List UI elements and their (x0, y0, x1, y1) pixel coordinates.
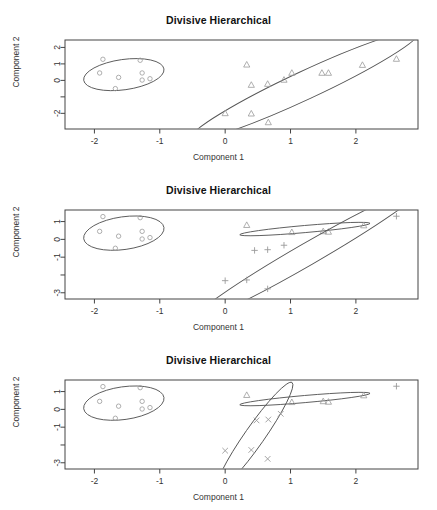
data-point-circle (140, 229, 144, 233)
cluster-ellipse (185, 178, 428, 331)
data-point-triangle (265, 81, 271, 87)
x-tick-label: -2 (91, 476, 99, 486)
y-tick-label: 1 (52, 389, 62, 394)
data-point-circle (116, 75, 120, 79)
data-point-circle (116, 404, 120, 408)
plot-frame (65, 210, 418, 299)
data-point-triangle (248, 82, 254, 88)
y-tick-label: 0 (52, 407, 62, 412)
data-point-circle (97, 399, 101, 403)
x-tick-label: -1 (156, 136, 164, 146)
data-point-triangle (244, 222, 250, 228)
data-point-circle (148, 77, 152, 81)
y-tick-label: 0 (52, 78, 62, 83)
x-tick-label: 1 (288, 476, 293, 486)
plot-frame (65, 380, 418, 469)
y-tick-label: 1 (52, 61, 62, 66)
y-tick-label: -3 (52, 289, 62, 297)
y-tick-label: -1 (52, 253, 62, 261)
data-point-circle (140, 78, 144, 82)
data-point-circle (116, 234, 120, 238)
data-point-triangle (319, 70, 325, 76)
x-tick-label: 0 (223, 136, 228, 146)
data-point-circle (140, 399, 144, 403)
y-tick-label: 0 (52, 237, 62, 242)
data-point-circle (113, 86, 117, 90)
x-tick-label: 2 (354, 476, 359, 486)
y-tick-label: -3 (52, 459, 62, 467)
plot-panel-3: Divisive Hierarchical Component 2 Compon… (0, 340, 437, 510)
data-point-triangle (248, 110, 254, 116)
y-tick-label: -2 (52, 109, 62, 117)
data-point-circle (113, 416, 117, 420)
data-layer (81, 178, 428, 331)
figure-canvas: Divisive Hierarchical Component 2 Compon… (0, 0, 437, 510)
x-tick-label: 0 (223, 476, 228, 486)
cluster-ellipse (185, 19, 424, 151)
data-point-circle (113, 246, 117, 250)
plot-panel-1: Divisive Hierarchical Component 2 Compon… (0, 0, 437, 170)
data-point-circle (101, 214, 105, 218)
data-layer (82, 19, 425, 151)
x-tick-label: 2 (354, 136, 359, 146)
y-tick-label: -1 (52, 423, 62, 431)
data-point-triangle (244, 392, 250, 398)
data-point-circle (101, 384, 105, 388)
y-tick-label: 2 (52, 45, 62, 50)
x-tick-label: -1 (156, 476, 164, 486)
cluster-ellipse (239, 220, 370, 238)
data-point-circle (101, 57, 105, 61)
data-point-triangle (244, 61, 250, 67)
plot-panel-2: Divisive Hierarchical Component 2 Compon… (0, 170, 437, 340)
data-point-circle (140, 407, 144, 411)
data-point-circle (140, 237, 144, 241)
plot-area-1: -2-1012210-2 (0, 0, 437, 170)
cluster-ellipse (81, 211, 166, 255)
data-point-circle (97, 71, 101, 75)
plot-frame (65, 40, 418, 129)
cluster-ellipse (239, 390, 370, 408)
data-point-circle (140, 71, 144, 75)
data-layer (81, 377, 399, 495)
data-point-triangle (393, 56, 399, 62)
x-tick-label: -2 (91, 136, 99, 146)
x-tick-label: 0 (223, 306, 228, 316)
x-tick-label: -2 (91, 306, 99, 316)
data-point-circle (97, 229, 101, 233)
data-point-circle (148, 235, 152, 239)
x-tick-label: 1 (288, 306, 293, 316)
data-point-triangle (265, 119, 271, 125)
data-point-triangle (325, 70, 331, 76)
data-point-triangle (359, 62, 365, 68)
plot-area-2: -2-101210-1-3 (0, 170, 437, 340)
plot-area-3: -2-101210-1-3 (0, 340, 437, 510)
cluster-ellipse (81, 381, 166, 425)
x-tick-label: 1 (288, 136, 293, 146)
y-tick-label: 1 (52, 219, 62, 224)
x-tick-label: -1 (156, 306, 164, 316)
x-tick-label: 2 (354, 306, 359, 316)
data-point-circle (148, 405, 152, 409)
cluster-ellipse (82, 54, 166, 95)
